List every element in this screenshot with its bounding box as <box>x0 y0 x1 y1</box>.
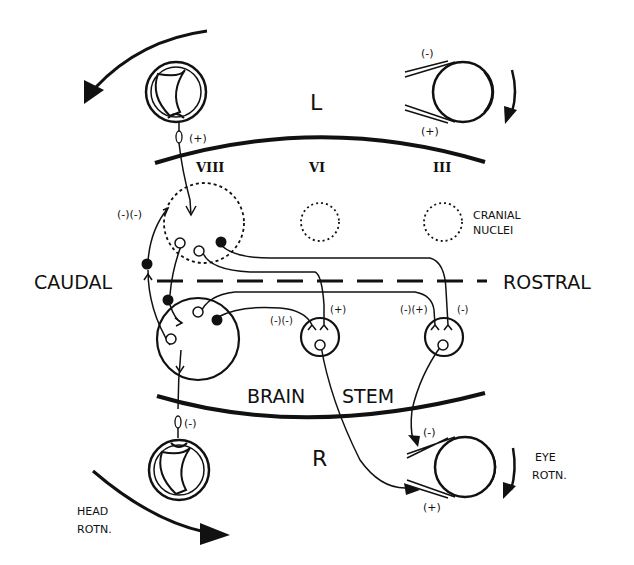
rotn-label-head: ROTN. <box>77 523 112 536</box>
left-semicircular-canal <box>146 62 206 122</box>
left-canal-sign: (+) <box>189 132 207 145</box>
head-label: HEAD <box>77 505 108 518</box>
eye-label: EYE <box>535 451 556 464</box>
vestibulo-ocular-reflex-diagram: (+) (-) (+) L R CAUDAL ROSTRAL BRAIN STE… <box>0 0 634 565</box>
head-rotation-arrow-bottom-head <box>200 523 230 545</box>
left-oculomotor-nucleus <box>424 203 462 241</box>
left-afferent-ganglion <box>176 131 182 143</box>
neuron-open-oculomotor <box>438 340 448 350</box>
left-eye-bottom-sign: (+) <box>421 125 439 138</box>
brain-label: BRAIN <box>247 385 305 407</box>
rotn-label-eye: ROTN. <box>532 469 567 482</box>
vestibular-input-signs: (-)(-) <box>117 208 142 221</box>
neuron-open-vn-left-1 <box>175 238 185 248</box>
iii-nucleus-left-signs: (-)(+) <box>400 304 428 315</box>
eye-rotation-arrow-top <box>512 70 515 112</box>
right-eye-bottom-sign: (+) <box>423 501 441 514</box>
abducens-arrowhead <box>404 483 420 495</box>
neuron-filled-commissural <box>142 259 153 270</box>
eye-rotation-arrow-top-head <box>504 106 517 124</box>
nuclei-label: NUCLEI <box>473 224 513 237</box>
vi-nucleus-left-signs: (-)(-) <box>270 315 293 326</box>
nerve-vi-label: VI <box>308 160 325 175</box>
nerve-iii-label: III <box>433 160 451 175</box>
brainstem-lower-boundary <box>157 393 485 417</box>
right-eye-top-sign: (-) <box>423 426 436 439</box>
eye-rotation-arrow-bottom <box>511 448 515 490</box>
neuron-open-vn-right-1 <box>193 307 203 317</box>
left-side-label: L <box>310 90 323 115</box>
eye-rotation-arrow-bottom-head <box>503 482 516 499</box>
left-eye-top-sign: (-) <box>421 47 434 60</box>
vi-nucleus-right-sign: (+) <box>330 304 346 315</box>
neuron-filled-vn-left <box>216 237 227 248</box>
nerve-viii-label: VIII <box>195 160 224 175</box>
neural-pathways <box>144 208 452 488</box>
neuron-filled-vn-right <box>212 315 223 326</box>
neuron-open-vn-left-2 <box>194 246 204 256</box>
right-canal-sign: (-) <box>184 417 197 430</box>
rostral-label: ROSTRAL <box>503 271 591 293</box>
iii-nucleus-right-sign: (-) <box>457 304 469 315</box>
oculomotor-arrowhead <box>408 435 420 447</box>
neuron-filled-commissural-2 <box>163 295 174 306</box>
caudal-label: CAUDAL <box>34 271 112 293</box>
cranial-label: CRANIAL <box>473 209 521 222</box>
stem-label: STEM <box>342 385 394 407</box>
right-side-label: R <box>312 446 327 471</box>
neuron-open-vn-right-2 <box>166 334 176 344</box>
neuron-open-abducens <box>315 340 325 350</box>
head-rotation-arrow-top <box>95 31 207 88</box>
right-afferent-ganglion <box>175 416 181 428</box>
right-eye <box>407 437 496 498</box>
left-eye <box>405 61 493 123</box>
left-abducens-nucleus <box>301 203 339 241</box>
right-semicircular-canal <box>149 440 209 500</box>
